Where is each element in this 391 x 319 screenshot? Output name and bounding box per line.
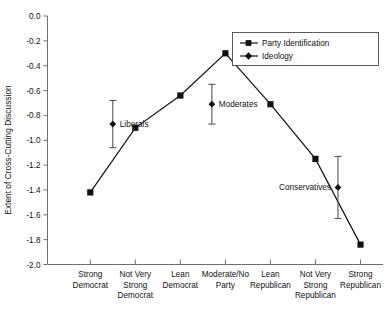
- x-tick-label: Moderate/NoParty: [202, 270, 250, 290]
- x-tick-label: Not VeryStrongDemocrat: [118, 270, 154, 300]
- legend-label-ideology: Ideology: [262, 52, 294, 61]
- series-party-identification: [87, 50, 363, 248]
- data-point-marker-diamond: [208, 101, 215, 108]
- cross-cutting-discussion-chart: Extent of Cross-Cutting Discussion 0.0-0…: [0, 0, 391, 319]
- annotation-label-conservatives: Conservatives: [279, 183, 331, 192]
- y-tick-label: -1.4: [26, 186, 41, 195]
- data-point-marker-square: [357, 242, 363, 248]
- y-axis-ticks: 0.0-0.2-0.4-0.6-0.8-1.0-1.2-1.4-1.6-1.8-…: [26, 12, 47, 270]
- x-axis-ticks: [90, 260, 360, 265]
- annotation-label-liberals: Liberals: [120, 120, 149, 129]
- y-tick-label: -1.8: [26, 236, 41, 245]
- y-tick-label: 0.0: [29, 12, 41, 21]
- x-tick-label: StrongDemocrat: [73, 270, 109, 290]
- x-tick-label: LeanRepublican: [250, 270, 291, 290]
- y-axis-title: Extent of Cross-Cutting Discussion: [3, 85, 13, 215]
- y-tick-label: -0.4: [26, 62, 41, 71]
- party-identification-line: [90, 53, 360, 244]
- y-tick-label: -0.2: [26, 37, 41, 46]
- legend-marker-square-icon: [246, 40, 252, 46]
- annotation-label-moderates: Moderates: [219, 100, 258, 109]
- y-tick-label: -0.6: [26, 87, 41, 96]
- x-tick-label: StrongRepublican: [340, 270, 381, 290]
- x-tick-label: Not VeryStrongRepublican: [295, 270, 336, 300]
- data-point-marker-square: [312, 156, 318, 162]
- x-axis-tick-labels: StrongDemocratNot VeryStrongDemocratLean…: [73, 270, 382, 300]
- x-tick-label: LeanDemocrat: [163, 270, 199, 290]
- chart-container: Extent of Cross-Cutting Discussion 0.0-0…: [0, 0, 391, 319]
- data-point-marker-diamond: [335, 184, 342, 191]
- y-tick-label: -1.0: [26, 136, 41, 145]
- annotation-labels: LiberalsModeratesConservatives: [120, 100, 331, 192]
- data-point-marker-square: [177, 92, 183, 98]
- y-tick-label: -2.0: [26, 261, 41, 270]
- data-point-marker-square: [267, 101, 273, 107]
- chart-legend: Party Identification Ideology: [233, 33, 379, 66]
- y-tick-label: -1.2: [26, 161, 41, 170]
- y-tick-label: -1.6: [26, 211, 41, 220]
- legend-label-party-identification: Party Identification: [262, 39, 330, 48]
- legend-box: [233, 33, 379, 66]
- data-point-marker-square: [222, 50, 228, 56]
- data-point-marker-diamond: [109, 121, 116, 128]
- y-tick-label: -0.8: [26, 111, 41, 120]
- data-point-marker-square: [87, 189, 93, 195]
